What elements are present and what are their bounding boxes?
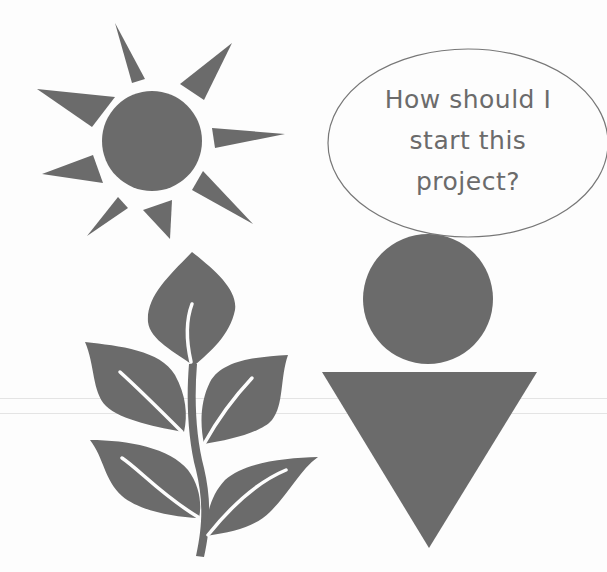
speech-bubble-line-1: How should I [368,80,568,120]
speech-bubble-line-2: start this [368,121,568,161]
plant-icon [85,252,318,557]
illustration-canvas: How should I start this project? [0,0,607,572]
sun-icon [37,23,285,239]
person-head [363,234,493,364]
person-icon [322,234,537,548]
speech-bubble-line-3: project? [368,162,568,202]
person-body [322,372,537,548]
